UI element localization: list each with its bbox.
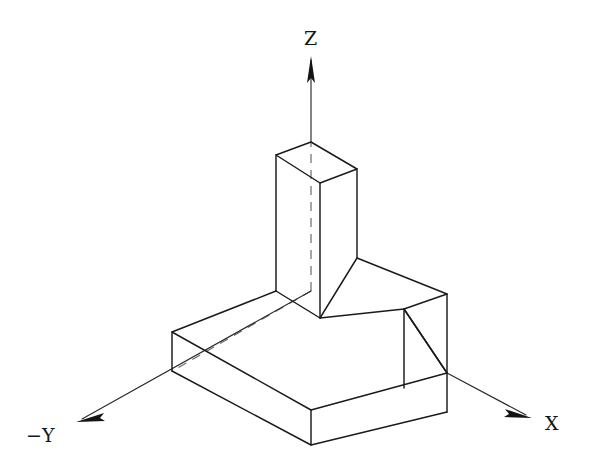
z-axis-label: Z (304, 27, 317, 49)
x-axis-label: X (545, 412, 559, 434)
step-top-face (320, 258, 447, 318)
isometric-figure: Z X −Y (0, 0, 595, 466)
hidden-lines-group (176, 142, 311, 369)
axis-labels-group: Z X −Y (26, 27, 559, 446)
negative-y-axis-line (82, 291, 311, 419)
x-axis-line (447, 373, 526, 415)
base-top-right-back-edge (404, 309, 447, 373)
base-upright-left-junction (276, 291, 320, 318)
drawing-canvas: Z X −Y (0, 0, 595, 466)
negative-y-axis-label: −Y (26, 424, 55, 446)
upright-top-face (276, 142, 357, 183)
base-bottom-edges (172, 371, 447, 445)
axes-group (76, 56, 532, 422)
solid-edges-group (172, 142, 447, 445)
